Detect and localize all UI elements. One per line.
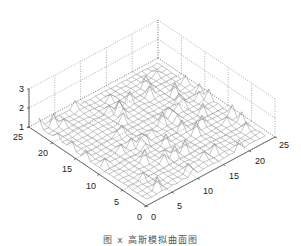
right-tick-0: 0: [151, 212, 156, 222]
right-tick-25: 25: [279, 140, 289, 150]
z-tick-2: 2: [19, 103, 24, 113]
left-tick-20: 20: [38, 148, 48, 158]
left-tick-5: 5: [114, 197, 119, 207]
left-tick-10: 10: [86, 181, 96, 191]
z-tick-3: 3: [19, 84, 24, 94]
right-tick-20: 20: [255, 156, 265, 166]
right-tick-10: 10: [203, 186, 213, 196]
axis-lines: [27, 89, 277, 207]
right-tick-5: 5: [177, 201, 182, 211]
tick-labels: 3 2 1 25 20 15 10 5 0 0 5 10 15 20 25: [13, 84, 289, 222]
left-tick-0: 0: [137, 212, 142, 222]
figure-caption: 图 x 高斯模拟曲面图: [0, 233, 301, 246]
left-tick-25: 25: [13, 132, 23, 142]
right-tick-15: 15: [229, 171, 239, 181]
left-tick-15: 15: [62, 164, 72, 174]
z-tick-1: 1: [19, 122, 24, 132]
